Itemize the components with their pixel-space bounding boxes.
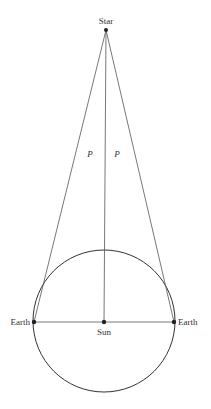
star-dot bbox=[104, 28, 108, 32]
parallax-label-right: P bbox=[113, 149, 120, 159]
line-star-to-right-earth bbox=[106, 30, 174, 322]
parallax-diagram: Star P P Earth Earth Sun bbox=[0, 0, 211, 409]
earth-left-dot bbox=[32, 320, 36, 324]
star-label: Star bbox=[99, 16, 114, 26]
line-star-to-sun bbox=[104, 30, 106, 322]
earth-right-dot bbox=[172, 320, 176, 324]
sun-dot bbox=[102, 320, 106, 324]
earth-left-label: Earth bbox=[11, 317, 31, 327]
line-star-to-left-earth bbox=[34, 30, 106, 322]
earth-right-label: Earth bbox=[178, 317, 198, 327]
sun-label: Sun bbox=[97, 327, 112, 337]
parallax-label-left: P bbox=[86, 149, 93, 159]
